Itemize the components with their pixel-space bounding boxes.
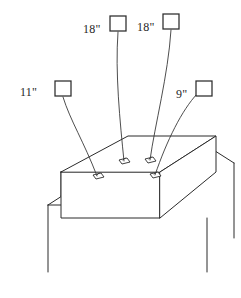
technical-diagram: 11" 18" 18" 9" [0,0,241,298]
stand-rail-left-front [48,196,62,205]
sensor-box-left[interactable] [55,81,71,96]
dimension-label-center-right: 18" [137,20,155,34]
block-group [61,136,216,218]
sensor-box-center-right[interactable] [163,14,179,29]
dimension-label-group: 11" 18" 18" 9" [20,20,187,101]
diagram-canvas: 11" 18" 18" 9" [0,0,241,298]
dimension-label-left: 11" [20,85,37,99]
sensor-box-center-left[interactable] [110,16,126,31]
block-front-face [61,172,160,218]
sensor-box-group [55,14,212,96]
dimension-label-center-left: 18" [83,22,101,36]
sensor-box-right[interactable] [196,81,212,96]
dimension-label-right: 9" [176,87,187,101]
